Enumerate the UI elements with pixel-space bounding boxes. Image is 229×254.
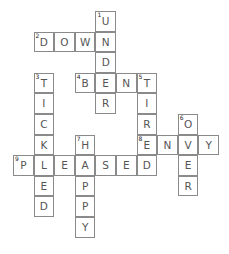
cell-letter: H <box>76 139 95 151</box>
crossword-cell[interactable]: E <box>54 155 75 176</box>
crossword-cell[interactable]: 4B <box>75 73 96 94</box>
cell-letter: N <box>158 139 177 151</box>
cell-letter: V <box>179 139 198 151</box>
cell-letter: R <box>138 118 157 130</box>
cell-letter: R <box>96 97 115 109</box>
cell-letter: O <box>55 36 74 48</box>
cell-letter: S <box>96 159 115 171</box>
crossword-cell[interactable]: R <box>178 176 199 197</box>
crossword-cell[interactable]: E <box>178 155 199 176</box>
cell-letter: P <box>76 180 95 192</box>
cell-letter: Y <box>76 221 95 233</box>
crossword-cell[interactable]: I <box>34 93 55 114</box>
crossword-cell[interactable]: C <box>34 114 55 135</box>
crossword-grid: 1UNDER2DOW3TICKLED4BN5TIR8ED6OVER7HAPPYN… <box>0 0 229 254</box>
cell-letter: T <box>138 77 157 89</box>
cell-letter: W <box>76 36 95 48</box>
cell-letter: E <box>96 77 115 89</box>
crossword-cell[interactable]: 1U <box>95 11 116 32</box>
crossword-cell[interactable]: N <box>157 135 178 156</box>
crossword-cell[interactable]: D <box>95 52 116 73</box>
cell-letter: E <box>138 139 157 151</box>
crossword-cell[interactable]: E <box>34 176 55 197</box>
cell-letter: I <box>35 97 54 109</box>
cell-letter: D <box>138 159 157 171</box>
cell-letter: D <box>35 200 54 212</box>
crossword-cell[interactable]: I <box>137 93 158 114</box>
cell-letter: B <box>76 77 95 89</box>
crossword-cell[interactable]: P <box>75 196 96 217</box>
crossword-cell[interactable]: 9P <box>13 155 34 176</box>
crossword-cell[interactable]: L <box>34 155 55 176</box>
crossword-cell[interactable]: S <box>95 155 116 176</box>
cell-letter: E <box>179 159 198 171</box>
crossword-cell[interactable]: W <box>75 32 96 53</box>
cell-letter: E <box>55 159 74 171</box>
crossword-cell[interactable]: A <box>75 155 96 176</box>
cell-letter: N <box>117 77 136 89</box>
cell-letter: C <box>35 118 54 130</box>
crossword-cell[interactable]: 3T <box>34 73 55 94</box>
crossword-cell[interactable]: P <box>75 176 96 197</box>
cell-letter: D <box>96 56 115 68</box>
cell-letter: E <box>35 180 54 192</box>
crossword-cell[interactable]: D <box>34 196 55 217</box>
cell-letter: N <box>96 36 115 48</box>
crossword-cell[interactable]: 6O <box>178 114 199 135</box>
crossword-cell[interactable]: K <box>34 135 55 156</box>
crossword-cell[interactable]: 2D <box>34 32 55 53</box>
crossword-cell[interactable]: R <box>137 114 158 135</box>
cell-letter: D <box>35 36 54 48</box>
cell-letter: E <box>117 159 136 171</box>
cell-letter: U <box>96 15 115 27</box>
cell-letter: I <box>138 97 157 109</box>
cell-letter: P <box>76 200 95 212</box>
crossword-cell[interactable]: N <box>116 73 137 94</box>
crossword-cell[interactable]: E <box>95 73 116 94</box>
crossword-cell[interactable]: N <box>95 32 116 53</box>
cell-letter: K <box>35 139 54 151</box>
crossword-cell[interactable]: 8E <box>137 135 158 156</box>
cell-letter: L <box>35 159 54 171</box>
cell-letter: A <box>76 159 95 171</box>
cell-letter: Y <box>199 139 218 151</box>
crossword-cell[interactable]: V <box>178 135 199 156</box>
crossword-cell[interactable]: Y <box>198 135 219 156</box>
crossword-cell[interactable]: 7H <box>75 135 96 156</box>
crossword-cell[interactable]: O <box>54 32 75 53</box>
crossword-cell[interactable]: R <box>95 93 116 114</box>
cell-letter: T <box>35 77 54 89</box>
crossword-cell[interactable]: E <box>116 155 137 176</box>
cell-letter: O <box>179 118 198 130</box>
crossword-cell[interactable]: 5T <box>137 73 158 94</box>
cell-letter: P <box>14 159 33 171</box>
cell-letter: R <box>179 180 198 192</box>
crossword-cell[interactable]: Y <box>75 217 96 238</box>
crossword-cell[interactable]: D <box>137 155 158 176</box>
